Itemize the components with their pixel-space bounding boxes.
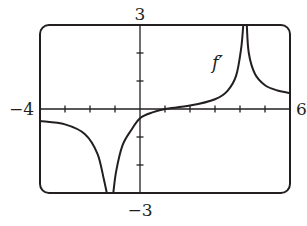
chart: 3 −3 −4 6 f′ [0, 0, 307, 226]
x-max-label: 6 [296, 99, 307, 119]
y-max-label: 3 [135, 4, 146, 24]
x-min-label: −4 [9, 99, 34, 119]
y-min-label: −3 [127, 200, 152, 220]
curve-segment [247, 25, 290, 93]
curve-label: f′ [210, 52, 223, 73]
curve-segment [40, 121, 107, 193]
